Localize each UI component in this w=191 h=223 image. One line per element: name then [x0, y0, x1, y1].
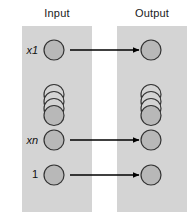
output-node-stack-4	[141, 106, 161, 126]
input-node-stack-4	[44, 106, 64, 126]
output-node-n	[141, 130, 161, 150]
node-label-x1: x1	[6, 44, 38, 56]
output-node-bias	[141, 165, 161, 185]
input-node-bias	[44, 165, 64, 185]
input-node-x1	[44, 40, 64, 60]
input-node-xn	[44, 130, 64, 150]
node-label-xn: xn	[6, 134, 38, 146]
network-diagram: Input Output x1 xn 1	[0, 0, 191, 223]
node-label-bias: 1	[6, 168, 38, 180]
output-node-1	[141, 40, 161, 60]
nodes-and-arrows-layer	[0, 0, 191, 223]
neuron-nodes	[44, 40, 161, 185]
connection-arrows	[70, 50, 139, 175]
